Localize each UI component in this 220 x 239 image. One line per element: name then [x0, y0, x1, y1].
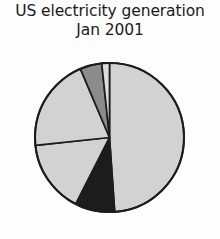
pie-chart-figure: US electricity generation Jan 2001 [0, 0, 220, 239]
pie-svg [0, 0, 220, 239]
pie-slice [110, 63, 185, 212]
pie-chart-area [0, 0, 220, 239]
